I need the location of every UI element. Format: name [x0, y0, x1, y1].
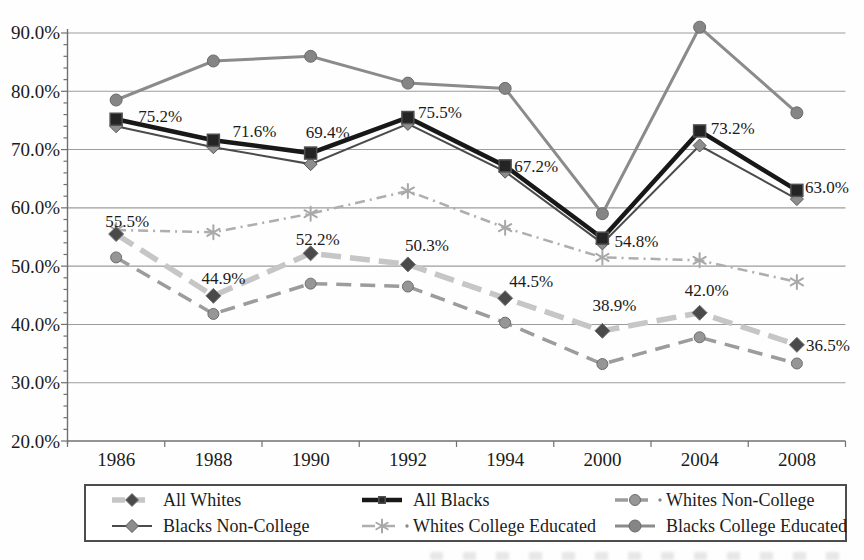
- circle-marker: [694, 332, 705, 343]
- line-chart-figure: 90.0%80.0%70.0%60.0%50.0%40.0%30.0%20.0%…: [0, 0, 864, 560]
- chart-legend: All WhitesAll BlacksWhites Non-CollegeBl…: [84, 484, 847, 542]
- dash-dot: [405, 524, 408, 527]
- y-tick-label: 90.0%: [11, 22, 60, 43]
- x-tick-label: 1994: [486, 449, 525, 470]
- circle-marker: [596, 208, 608, 220]
- data-label: 44.9%: [201, 269, 245, 288]
- dash-dot: [658, 498, 661, 501]
- data-label: 75.5%: [418, 103, 462, 122]
- legend-item-whites-non-college: Whites Non-College: [613, 490, 847, 511]
- x-tick-label: 1992: [389, 449, 427, 470]
- legend-marker-whites-college-educated: [360, 518, 410, 534]
- y-tick-label: 50.0%: [11, 256, 60, 277]
- legend-item-all-blacks: All Blacks: [360, 490, 613, 511]
- square-marker: [305, 147, 317, 159]
- diamond-marker: [789, 337, 804, 352]
- square-marker: [402, 112, 414, 124]
- circle-marker: [630, 495, 641, 506]
- x-tick-label: 2000: [583, 449, 621, 470]
- legend-marker-all-blacks: [360, 492, 410, 508]
- cropped-caption-artifact: [430, 552, 854, 560]
- asterisk-marker: [791, 275, 803, 289]
- square-marker: [499, 160, 511, 172]
- legend-marker-all-whites: [110, 492, 160, 508]
- legend-label: Whites Non-College: [666, 490, 814, 511]
- legend-item-whites-college-educated: Whites College Educated: [360, 516, 613, 537]
- y-tick-label: 70.0%: [11, 139, 60, 160]
- circle-marker: [629, 520, 641, 532]
- circle-marker: [791, 107, 803, 119]
- circle-marker: [500, 317, 511, 328]
- data-label: 75.2%: [138, 107, 182, 126]
- y-tick-label: 80.0%: [11, 81, 60, 102]
- legend-label: All Whites: [163, 490, 241, 511]
- x-tick-label: 1990: [292, 449, 330, 470]
- diamond-marker: [126, 494, 139, 507]
- legend-label: Blacks College Educated: [666, 516, 847, 537]
- diamond-marker: [400, 257, 415, 272]
- square-marker: [596, 232, 608, 244]
- data-label: 44.5%: [509, 272, 553, 291]
- data-label: 71.6%: [232, 122, 276, 141]
- asterisk-marker: [499, 221, 511, 235]
- data-label: 52.2%: [296, 230, 340, 249]
- legend-marker-whites-non-college: [613, 492, 663, 508]
- x-tick-label: 1988: [194, 449, 232, 470]
- legend-item-all-whites: All Whites: [110, 490, 360, 511]
- square-marker: [791, 184, 803, 196]
- legend-item-blacks-non-college: Blacks Non-College: [110, 516, 360, 537]
- circle-marker: [305, 278, 316, 289]
- square-marker: [207, 134, 219, 146]
- plot-area: 90.0%80.0%70.0%60.0%50.0%40.0%30.0%20.0%…: [0, 0, 864, 478]
- circle-marker: [111, 252, 122, 263]
- x-tick-label: 2008: [778, 449, 816, 470]
- legend-label: All Blacks: [413, 490, 490, 511]
- diamond-marker: [126, 520, 139, 533]
- circle-marker: [791, 358, 802, 369]
- square-marker: [694, 125, 706, 137]
- circle-marker: [207, 55, 219, 67]
- legend-item-blacks-college-educated: Blacks College Educated: [613, 516, 847, 537]
- y-tick-label: 30.0%: [11, 372, 60, 393]
- legend-label: Whites College Educated: [413, 516, 596, 537]
- data-label: 42.0%: [685, 281, 729, 300]
- x-tick-label: 2004: [681, 449, 720, 470]
- y-tick-label: 40.0%: [11, 314, 60, 335]
- data-label: 50.3%: [405, 236, 449, 255]
- square-marker: [110, 113, 122, 125]
- data-label: 36.5%: [806, 336, 850, 355]
- data-label: 69.4%: [306, 123, 350, 142]
- data-label: 73.2%: [711, 119, 755, 138]
- data-label: 55.5%: [105, 212, 149, 231]
- x-tick-label: 1986: [97, 449, 135, 470]
- y-tick-label: 60.0%: [11, 197, 60, 218]
- data-label: 63.0%: [805, 178, 849, 197]
- square-marker: [379, 497, 386, 504]
- circle-marker: [305, 50, 317, 62]
- diamond-marker: [692, 305, 707, 320]
- circle-marker: [694, 21, 706, 33]
- data-label: 67.2%: [514, 157, 558, 176]
- data-label: 38.9%: [592, 296, 636, 315]
- y-tick-label: 20.0%: [11, 431, 60, 452]
- legend-marker-blacks-college-educated: [613, 518, 663, 534]
- series-all-blacks: 75.2%71.6%69.4%75.5%67.2%54.8%73.2%63.0%: [110, 103, 849, 252]
- circle-marker: [402, 281, 413, 292]
- legend-label: Blacks Non-College: [163, 516, 309, 537]
- circle-marker: [402, 77, 414, 89]
- circle-marker: [110, 94, 122, 106]
- circle-marker: [208, 308, 219, 319]
- legend-marker-blacks-non-college: [110, 518, 160, 534]
- circle-marker: [499, 82, 511, 94]
- data-label: 54.8%: [614, 232, 658, 251]
- circle-marker: [597, 359, 608, 370]
- diamond-marker: [498, 291, 513, 306]
- diamond-marker: [595, 323, 610, 338]
